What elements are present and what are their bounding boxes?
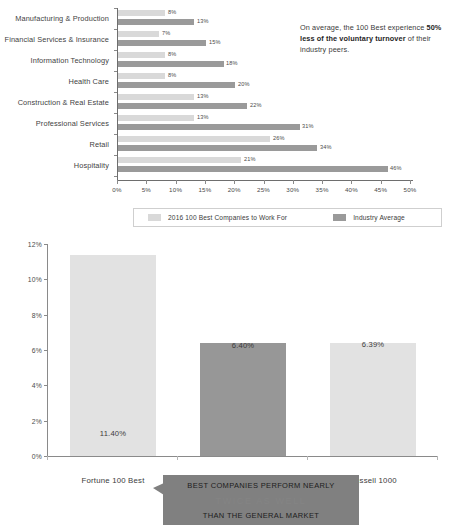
x-tick-label: 25% [257,186,270,193]
bar-value-best: 13% [197,114,209,120]
category-label: Professional Services [0,113,113,134]
bar-value-best: 8% [168,72,176,78]
x-tick-label: 30% [286,186,299,193]
legend-swatch-dark [333,214,346,221]
legend-item-best: 2016 100 Best Companies to Work For [148,214,287,221]
y-tick-label: 8% [32,311,42,318]
bar-industry [118,124,300,130]
chart-legend: 2016 100 Best Companies to Work For Indu… [133,208,442,227]
y-tick-label: 10% [28,276,42,283]
category-label: Hospitality [0,155,113,176]
bar-best [118,136,270,142]
category-label: Manufacturing & Production [0,8,113,29]
bar-value-industry: 31% [302,123,314,129]
callout-line-3: THAN THE GENERAL MARKET [163,511,359,520]
category-label: Financial Services & Insurance [0,29,113,50]
category-label: Information Technology [0,50,113,71]
bar-industry [118,145,317,151]
category-label: Retail [0,134,113,155]
annotation-line3-suffix: of [406,34,414,43]
bar-value-industry: 20% [238,81,250,87]
annotation-line2-prefix: experience [388,23,427,32]
legend-swatch-light [148,214,161,221]
bar-value-best: 8% [168,9,176,15]
x-tick-label: 0% [112,186,121,193]
x-tick-label: 15% [198,186,211,193]
bar-best [118,157,241,163]
bar-value-industry: 34% [320,144,332,150]
y-tick-label: 12% [28,241,42,248]
x-tick-label: 50% [404,186,417,193]
bottom-chart-plot-area: 11.40% Fortune 100 Best 6.40% Russell 30… [48,244,437,456]
bar-value-industry: 13% [197,18,209,24]
performance-callout: BEST COMPANIES PERFORM NEARLY TWICE AS W… [163,475,359,525]
bar-value-best: 7% [162,30,170,36]
legend-label-industry: Industry Average [353,214,405,221]
x-tick-label: 45% [374,186,387,193]
turnover-by-industry-chart: Manufacturing & Production Financial Ser… [0,0,464,228]
annotation-line1: On average, the 100 Best [300,23,386,32]
x-axis-ticks: 0% 5% 10% 15% 20% 25% 30% 35% 40% 45% 50… [117,180,413,194]
bar-value-russell-3000: 6.40% [232,341,255,350]
bar-value-best: 21% [244,156,256,162]
x-tick-label: 35% [316,186,329,193]
bottom-horizontal-axis [47,456,437,457]
bar-value-industry: 46% [390,165,402,171]
y-axis-labels: 0% 2% 4% 6% 8% 10% 12% [8,244,42,456]
bar-industry [118,82,235,88]
legend-label-best: 2016 100 Best Companies to Work For [168,214,287,221]
bar-industry [118,19,194,25]
bar-best [118,52,165,58]
bar-fortune-100-best [70,255,156,456]
bar-industry [118,166,388,172]
category-label: Health Care [0,71,113,92]
bar-value-industry: 18% [226,60,238,66]
bar-industry [118,61,224,67]
bar-value-industry: 22% [250,102,262,108]
x-tick-label: 40% [345,186,358,193]
x-tick-label: 5% [142,186,151,193]
bar-russell-1000 [330,343,416,456]
bar-value-best: 26% [273,135,285,141]
category-axis-labels: Manufacturing & Production Financial Ser… [0,8,113,176]
callout-line-2: TWICE AS WELL [163,496,359,506]
bar-industry [118,103,247,109]
y-tick-label: 2% [32,417,42,424]
bar-industry [118,40,206,46]
bar-value-fortune-100-best: 11.40% [100,429,126,438]
bar-best [118,73,165,79]
x-label-fortune-100-best: Fortune 100 Best [81,476,144,485]
bar-value-russell-1000: 6.39% [362,340,385,349]
bar-russell-3000 [200,343,286,456]
callout-line-1: BEST COMPANIES PERFORM NEARLY [163,481,359,490]
y-tick-label: 0% [32,453,42,460]
y-tick-label: 4% [32,382,42,389]
y-tick-label: 6% [32,347,42,354]
x-tick-label: 20% [228,186,241,193]
bar-best [118,94,194,100]
bar-value-best: 13% [197,93,209,99]
performance-comparison-chart: 0% 2% 4% 6% 8% 10% 12% 11.40% Fortune 10… [0,232,464,488]
annotation-line3-bold: voluntary turnover [339,34,405,43]
bar-best [118,10,165,16]
bar-best [118,115,194,121]
bar-best [118,31,159,37]
bar-value-best: 8% [168,51,176,57]
x-tick-label: 10% [169,186,182,193]
category-label: Construction & Real Estate [0,92,113,113]
legend-item-industry: Industry Average [333,214,405,221]
turnover-annotation: On average, the 100 Best experience 50% … [300,22,450,56]
bar-value-industry: 15% [209,39,221,45]
